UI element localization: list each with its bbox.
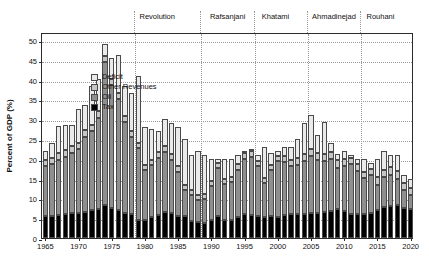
bar-2012 (355, 32, 360, 238)
bar-2019 (401, 32, 406, 238)
bar-segment-oil (63, 157, 68, 214)
era-label-rafsanjani: Rafsanjani (210, 13, 245, 21)
bar-segment-tax (355, 214, 360, 238)
bar-2016 (381, 32, 386, 238)
bar-segment-deficit (229, 159, 234, 177)
bar-segment-oil (69, 153, 74, 213)
bar-1974 (102, 32, 107, 238)
bar-segment-tax (395, 205, 400, 238)
bar-segment-other-revenues (282, 156, 287, 162)
bar-segment-other-revenues (268, 165, 273, 171)
bar-segment-oil (242, 159, 247, 214)
bar-1971 (82, 32, 87, 238)
bar-segment-deficit (209, 159, 214, 181)
bar-segment-deficit (282, 147, 287, 156)
bar-segment-deficit (175, 127, 180, 166)
bar-segment-oil (76, 149, 81, 213)
x-tick-label-1985: 1985 (170, 243, 187, 251)
bar-segment-other-revenues (129, 131, 134, 137)
bar-segment-oil (229, 182, 234, 220)
bar-segment-other-revenues (255, 161, 260, 167)
bar-segment-tax (348, 214, 353, 238)
bar-segment-oil (275, 161, 280, 216)
bar-segment-deficit (215, 159, 220, 163)
bar-segment-oil (255, 166, 260, 216)
bar-segment-other-revenues (401, 183, 406, 190)
bar-segment-deficit (202, 155, 207, 194)
bar-segment-tax (315, 213, 320, 238)
bar-segment-other-revenues (381, 170, 386, 178)
bar-segment-other-revenues (82, 130, 87, 137)
legend-swatch-oil (91, 94, 98, 101)
era-leader-line-rafsanjani (200, 11, 201, 33)
era-label-ahmadinejad: Ahmadinejad (312, 13, 356, 21)
bar-segment-oil (89, 131, 94, 210)
bar-2010 (342, 32, 347, 238)
bar-segment-tax (116, 210, 121, 238)
y-tick-mark-25 (39, 141, 42, 142)
bar-1996 (249, 32, 254, 238)
bar-segment-deficit (69, 125, 74, 146)
y-tick-mark-10 (39, 200, 42, 201)
bar-segment-tax (288, 214, 293, 238)
bar-segment-deficit (76, 109, 81, 142)
era-leader-line-ahmadinejad (307, 11, 308, 33)
bar-segment-deficit (288, 147, 293, 160)
legend-label-oil: Oil (102, 93, 111, 101)
x-tick-mark-1965 (45, 238, 46, 241)
bar-segment-oil (368, 175, 373, 213)
bar-segment-other-revenues (395, 171, 400, 179)
bar-segment-tax (136, 220, 141, 238)
x-tick-label-1995: 1995 (236, 243, 253, 251)
bar-segment-other-revenues (222, 179, 227, 184)
y-tick-label-25: 25 (29, 137, 37, 145)
bar-segment-oil (381, 177, 386, 207)
bar-segment-other-revenues (355, 164, 360, 170)
bar-segment-oil (215, 168, 220, 216)
bar-1987 (189, 32, 194, 238)
bar-segment-other-revenues (302, 154, 307, 160)
bar-segment-tax (209, 220, 214, 238)
bar-2013 (361, 32, 366, 238)
bar-segment-other-revenues (262, 178, 267, 183)
bar-segment-tax (129, 214, 134, 238)
bar-segment-deficit (408, 179, 413, 189)
y-tick-mark-20 (39, 161, 42, 162)
bar-segment-tax (308, 213, 313, 238)
bar-segment-other-revenues (215, 163, 220, 169)
bar-segment-tax (82, 212, 87, 238)
x-tick-label-1970: 1970 (70, 243, 87, 251)
bar-segment-oil (262, 183, 267, 217)
bar-segment-tax (89, 210, 94, 238)
bar-segment-other-revenues (275, 156, 280, 162)
legend-item-tax: Tax (91, 103, 157, 111)
bar-segment-tax (401, 208, 406, 238)
bar-segment-oil (49, 164, 54, 216)
y-tick-label-50: 50 (29, 38, 37, 46)
bar-segment-deficit (388, 155, 393, 167)
bar-segment-deficit (255, 155, 260, 161)
bar-2004 (302, 32, 307, 238)
bar-segment-oil (249, 157, 254, 214)
legend-swatch-deficit (91, 74, 98, 81)
bar-segment-deficit (222, 159, 227, 179)
bar-segment-oil (268, 170, 273, 216)
x-tick-mark-1990 (211, 238, 212, 241)
chart-legend: DeficitOther RevenuesOilTax (91, 73, 157, 111)
bar-segment-other-revenues (288, 160, 293, 166)
bar-segment-tax (202, 223, 207, 238)
x-tick-mark-1980 (145, 238, 146, 241)
bar-segment-other-revenues (169, 154, 174, 160)
bar-segment-tax (175, 216, 180, 238)
bar-segment-oil (96, 118, 101, 209)
y-tick-label-15: 15 (29, 177, 37, 185)
y-tick-label-35: 35 (29, 98, 37, 106)
bar-segment-oil (82, 137, 87, 212)
bar-segment-deficit (102, 44, 107, 56)
bar-segment-tax (222, 220, 227, 238)
bar-segment-other-revenues (195, 195, 200, 201)
bar-segment-oil (342, 166, 347, 212)
y-tick-mark-45 (39, 62, 42, 63)
x-tick-label-1975: 1975 (103, 243, 120, 251)
y-tick-mark-5 (39, 220, 42, 221)
